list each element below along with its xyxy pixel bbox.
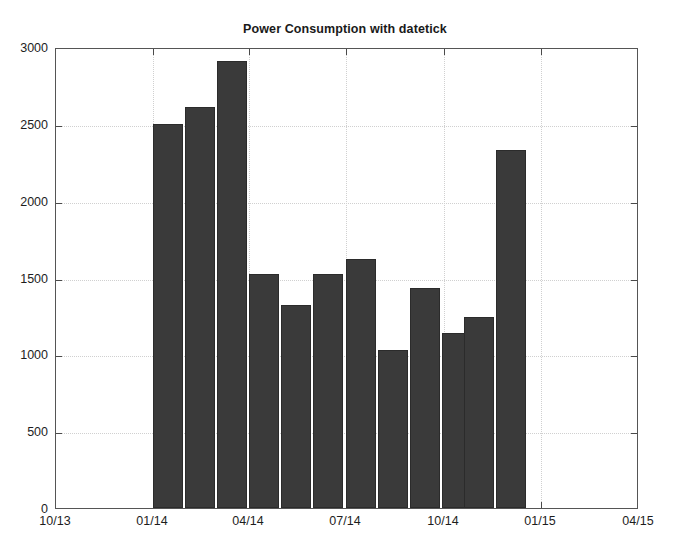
y-tick-label: 1000	[2, 348, 48, 362]
y-tick-label: 2500	[2, 118, 48, 132]
x-tick-mark	[444, 49, 445, 55]
x-tick-mark	[346, 49, 347, 55]
y-tick-mark	[631, 433, 637, 434]
bar	[281, 305, 311, 508]
gridline-vertical	[541, 49, 542, 508]
bar	[496, 150, 526, 508]
x-tick-mark	[541, 49, 542, 55]
bar	[153, 124, 183, 508]
chart-page: Power Consumption with datetick 05001000…	[0, 0, 690, 558]
x-tick-mark	[249, 49, 250, 55]
bar	[410, 288, 440, 508]
y-tick-label: 1500	[2, 272, 48, 286]
y-tick-mark	[631, 203, 637, 204]
x-tick-label: 10/14	[427, 514, 458, 528]
y-tick-mark	[631, 356, 637, 357]
plot-area	[55, 48, 638, 509]
x-tick-label: 04/14	[232, 514, 263, 528]
x-tick-label: 04/15	[622, 514, 653, 528]
bar	[464, 317, 494, 508]
y-tick-label: 2000	[2, 195, 48, 209]
y-tick-mark	[56, 433, 62, 434]
bar	[249, 274, 279, 508]
y-tick-mark	[56, 126, 62, 127]
x-tick-label: 07/14	[329, 514, 360, 528]
y-tick-mark	[631, 280, 637, 281]
x-tick-mark	[541, 502, 542, 508]
y-tick-mark	[56, 356, 62, 357]
y-tick-mark	[56, 203, 62, 204]
bar	[217, 61, 247, 508]
x-tick-label: 01/15	[524, 514, 555, 528]
x-tick-mark	[153, 49, 154, 55]
bar	[346, 259, 376, 508]
y-tick-mark	[631, 126, 637, 127]
x-tick-label: 10/13	[39, 514, 70, 528]
y-tick-mark	[56, 280, 62, 281]
y-tick-label: 500	[2, 425, 48, 439]
bar	[378, 350, 408, 508]
chart-title: Power Consumption with datetick	[0, 22, 690, 36]
y-axis-tick-labels: 050010001500200025003000	[0, 0, 48, 558]
x-tick-label: 01/14	[136, 514, 167, 528]
y-tick-label: 3000	[2, 41, 48, 55]
bar	[185, 107, 215, 508]
bar	[313, 274, 343, 508]
